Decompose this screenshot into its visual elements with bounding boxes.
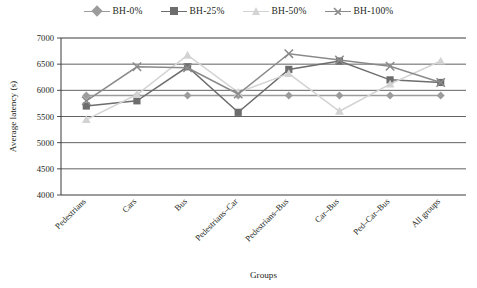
y-tick-label: 5500 xyxy=(37,112,54,122)
y-tick-label: 4500 xyxy=(37,164,54,174)
data-point xyxy=(285,92,293,100)
x-axis-title: Groups xyxy=(250,270,277,280)
x-tick-label: Pedestrians xyxy=(53,196,88,231)
x-tick-label: Ped–Car–Bus xyxy=(351,196,392,237)
y-axis-title: Average latency (s) xyxy=(8,81,18,152)
data-point xyxy=(436,57,445,65)
plot-area: 4000450050005500600065007000Average late… xyxy=(0,0,477,288)
x-tick-label: All groups xyxy=(409,196,442,229)
data-point xyxy=(386,92,394,100)
y-tick-label: 6000 xyxy=(37,85,54,95)
y-tick-label: 4000 xyxy=(37,190,54,200)
series-bh-50- xyxy=(82,51,445,123)
data-point xyxy=(437,92,445,100)
y-tick-label: 7000 xyxy=(37,33,54,43)
y-tick-label: 5000 xyxy=(37,138,54,148)
data-point xyxy=(335,92,343,100)
x-tick-label: Cars xyxy=(120,196,139,215)
data-point xyxy=(335,107,344,115)
x-tick-label: Car–Bus xyxy=(313,196,342,225)
data-point xyxy=(183,51,192,59)
y-tick-label: 6500 xyxy=(37,59,54,69)
chart-figure: BH-0% BH-25% BH-50% BH-10 xyxy=(0,0,477,288)
data-point xyxy=(133,97,140,104)
x-tick-label: Bus xyxy=(172,196,189,213)
data-point xyxy=(184,92,192,100)
x-tick-label: Pedestrians–Bus xyxy=(243,196,291,244)
x-tick-label: Pedestrians–Car xyxy=(193,196,240,243)
plot-svg: 4000450050005500600065007000Average late… xyxy=(0,0,477,288)
data-point xyxy=(235,109,242,116)
